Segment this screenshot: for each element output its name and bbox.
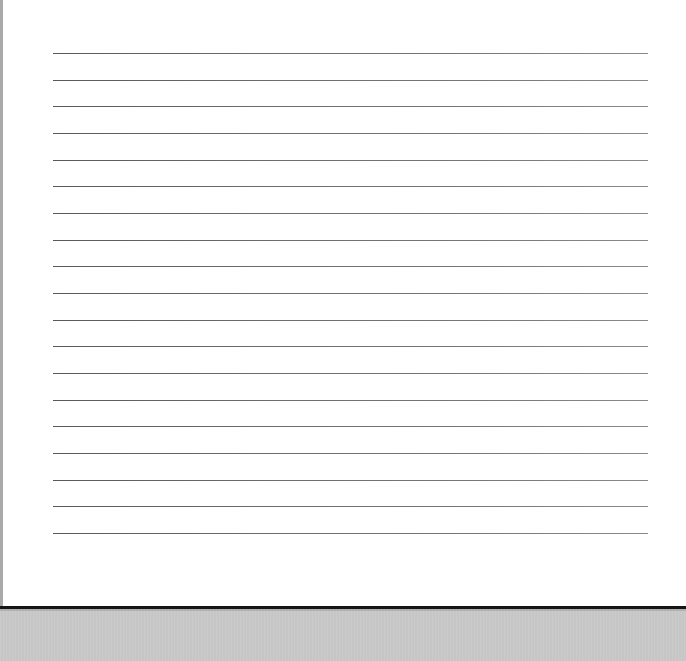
ruled-line — [53, 133, 648, 134]
ruled-line — [53, 240, 648, 241]
ruled-line — [53, 293, 648, 294]
ruled-line — [53, 80, 648, 81]
ruled-line — [53, 506, 648, 507]
ruled-line — [53, 346, 648, 347]
ruled-line — [53, 160, 648, 161]
ruled-lines-container — [53, 0, 648, 606]
ruled-line — [53, 533, 648, 534]
sheet-bottom-shadow — [0, 609, 686, 611]
lined-paper-sheet — [0, 0, 686, 606]
ruled-line — [53, 266, 648, 267]
ruled-line — [53, 480, 648, 481]
ruled-line — [53, 373, 648, 374]
ruled-line — [53, 186, 648, 187]
ruled-line — [53, 106, 648, 107]
ruled-line — [53, 453, 648, 454]
ruled-line — [53, 426, 648, 427]
ruled-line — [53, 320, 648, 321]
ruled-line — [53, 400, 648, 401]
ruled-line — [53, 213, 648, 214]
ruled-line — [53, 53, 648, 54]
